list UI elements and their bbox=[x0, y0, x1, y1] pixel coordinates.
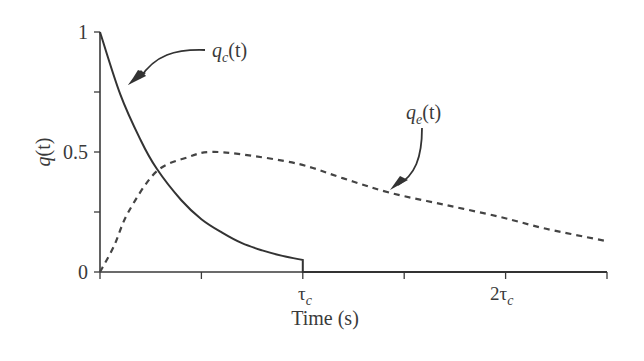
series-qe-curve bbox=[100, 152, 605, 272]
y-ticks bbox=[94, 32, 100, 272]
y-tick-label-1: 1 bbox=[78, 21, 88, 43]
chart: 1 0.5 0 q(t) τc 2τc Time (s) qc(t) qe(t) bbox=[0, 0, 644, 361]
axes bbox=[94, 32, 607, 279]
x-tick-label-tau-c: τc bbox=[298, 283, 313, 308]
y-axis-label: q(t) bbox=[32, 138, 55, 167]
x-ticks bbox=[100, 272, 607, 279]
arrowhead-icon bbox=[390, 176, 408, 190]
annotation-qe-label: qe(t) bbox=[406, 101, 441, 127]
annotation-qc-label: qc(t) bbox=[212, 39, 247, 65]
annotation-qe-arrow bbox=[398, 128, 422, 185]
x-tick-label-2tau-c: 2τc bbox=[490, 283, 514, 308]
annotation-qc-arrow bbox=[140, 50, 205, 78]
x-axis-label: Time (s) bbox=[291, 307, 359, 330]
annotation-qe: qe(t) bbox=[390, 101, 441, 190]
annotation-qc: qc(t) bbox=[128, 39, 247, 85]
series-qc-curve bbox=[100, 32, 607, 272]
y-tick-label-0: 0 bbox=[78, 261, 88, 283]
y-tick-label-0-5: 0.5 bbox=[63, 141, 88, 163]
